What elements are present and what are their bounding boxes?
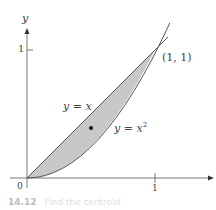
x-axis-arrow-icon bbox=[208, 176, 214, 181]
region-diagram: y 1 0 1 (1, 1) y = x y = x2 14.12Find th… bbox=[0, 0, 216, 210]
intersection-label: (1, 1) bbox=[162, 52, 192, 63]
figure-caption: 14.12Find the centroid bbox=[8, 198, 120, 207]
label-eq: = bbox=[73, 100, 82, 113]
parabola-y-equals-x-squared bbox=[27, 23, 170, 178]
label-rhs: x bbox=[85, 100, 91, 113]
caption-text: Find the centroid bbox=[44, 197, 120, 207]
line-y-equals-x bbox=[27, 37, 168, 178]
label-lhs: y bbox=[63, 100, 69, 113]
plot-canvas bbox=[0, 0, 216, 210]
y-tick-label: 1 bbox=[18, 44, 24, 54]
label-lhs: y bbox=[114, 122, 120, 135]
y-axis-label: y bbox=[22, 13, 28, 24]
y-axis-arrow-icon bbox=[25, 28, 30, 34]
caption-number: 14.12 bbox=[8, 197, 36, 207]
centroid-dot bbox=[89, 126, 93, 130]
x-tick-label: 1 bbox=[152, 184, 158, 193]
label-exponent: 2 bbox=[143, 121, 147, 129]
origin-label: 0 bbox=[17, 182, 23, 191]
label-eq: = bbox=[124, 122, 133, 135]
label-y-equals-x-squared: y = x2 bbox=[114, 122, 147, 134]
label-y-equals-x: y = x bbox=[63, 101, 92, 112]
